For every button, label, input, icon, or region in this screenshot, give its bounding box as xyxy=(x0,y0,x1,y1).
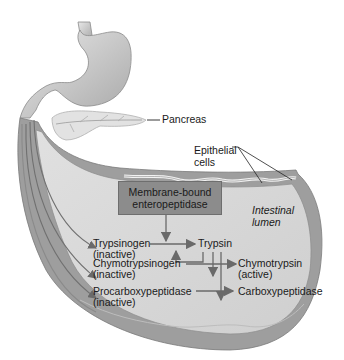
enteropeptidase-box: Membrane-bound enteropeptidase xyxy=(118,181,222,215)
epithelial-label-line1: Epithelial xyxy=(194,145,237,156)
lumen-label-line2: lumen xyxy=(252,217,281,228)
procarboxypeptidase-status: (inactive) xyxy=(93,297,136,308)
chymotrypsin-status: (active) xyxy=(238,269,272,280)
epithelial-label-line2: cells xyxy=(194,157,215,168)
pancreas-label: Pancreas xyxy=(162,114,206,125)
stomach xyxy=(20,30,131,118)
pancreas xyxy=(52,111,146,140)
enteropeptidase-line2: enteropeptidase xyxy=(119,199,221,210)
lumen-label-line1: Intestinal xyxy=(252,205,294,216)
chymotrypsinogen-status: (inactive) xyxy=(93,269,136,280)
trypsin-label: Trypsin xyxy=(198,238,232,249)
digestive-illustration xyxy=(0,0,344,360)
enteropeptidase-line1: Membrane-bound xyxy=(119,187,221,198)
carboxypeptidase-label: Carboxypeptidase xyxy=(238,286,323,297)
